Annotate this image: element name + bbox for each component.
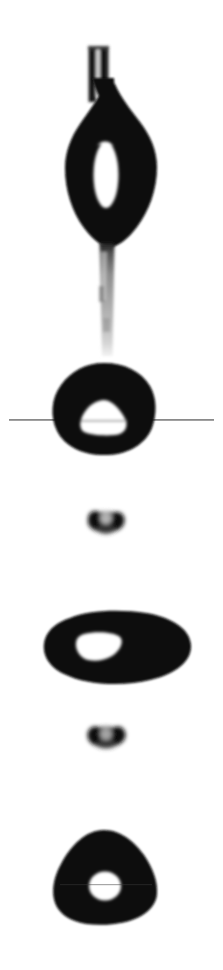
droplet-figure: Droplet pinch-off sequence Backlit high-… [0, 0, 223, 970]
drop-4-seam [60, 884, 152, 885]
drop-4-void [89, 872, 121, 901]
droplet-sequence-canvas [0, 0, 223, 970]
primary-drop-void [94, 142, 119, 208]
